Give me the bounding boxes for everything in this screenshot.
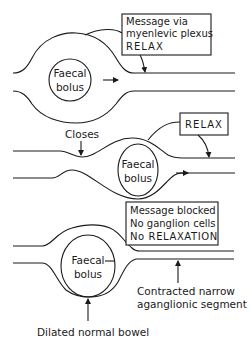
relax-pointer-arrow xyxy=(140,55,145,72)
message-connector xyxy=(85,29,122,35)
segment-label-line1: Contracted narrow xyxy=(137,285,235,297)
message-line2: No ganglion cells xyxy=(130,218,216,229)
closes-label: Closes xyxy=(65,128,99,140)
panel-3: Faecal bolus Message blocked No ganglion… xyxy=(13,202,247,338)
panel-2: Faecal bolus Closes RELAX xyxy=(13,113,235,199)
bolus-label-line2: bolus xyxy=(124,172,152,184)
bowel-label: Dilated normal bowel xyxy=(37,326,149,338)
bolus-label-line1: Faecal xyxy=(53,67,86,79)
message-line1: Message blocked xyxy=(130,205,216,216)
bolus-label-line1: Faecal xyxy=(71,254,104,266)
bowel-wall-upper xyxy=(13,138,235,158)
hirschsprung-diagram: Faecal bolus Message via myenlevic plexu… xyxy=(0,0,251,351)
relax-pointer-arrow xyxy=(198,135,209,157)
panel-1: Faecal bolus Message via myenlevic plexu… xyxy=(13,14,235,123)
message-line3: No RELAXATION xyxy=(130,231,218,242)
message-connector xyxy=(148,122,180,140)
segment-label-line2: aganglionic segment xyxy=(137,298,247,310)
relax-text: RELAX xyxy=(185,119,223,130)
message-line1: Message via xyxy=(126,16,188,27)
faecal-bolus xyxy=(61,235,115,297)
message-line2: myenlevic plexus xyxy=(126,28,213,39)
bolus-label-line1: Faecal xyxy=(121,158,154,170)
bolus-label-line2: bolus xyxy=(56,81,84,93)
message-line3: RELAX xyxy=(126,41,164,52)
bolus-label-line2: bolus xyxy=(74,268,102,280)
faecal-bolus xyxy=(118,144,158,196)
faecal-bolus xyxy=(49,59,91,101)
